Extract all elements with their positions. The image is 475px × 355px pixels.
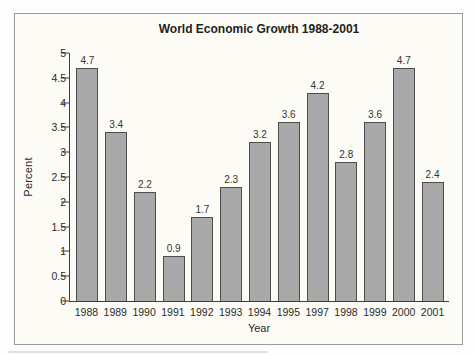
plot-area: 4.73.42.20.91.72.33.23.64.22.83.64.72.4 <box>69 53 449 302</box>
bar-group-1995: 3.6 <box>274 53 303 301</box>
bar <box>105 132 127 301</box>
bar-value-label: 1.7 <box>195 204 209 215</box>
y-tick-mark <box>61 102 69 103</box>
x-tick-label: 1994 <box>245 306 274 319</box>
bar-value-label: 3.6 <box>368 109 382 120</box>
x-tick-label: 1991 <box>159 306 188 319</box>
y-axis-title-col: Percent <box>15 53 41 301</box>
y-tick-mark <box>61 177 69 178</box>
bar-group-1993: 2.3 <box>217 53 246 301</box>
bar-value-label: 3.2 <box>253 129 267 140</box>
y-tick-mark <box>61 53 69 54</box>
title-row: World Economic Growth 1988-2001 <box>15 22 462 36</box>
scan-artifact-line <box>8 351 268 353</box>
y-tick-mark <box>61 226 69 227</box>
bar-value-label: 0.9 <box>167 243 181 254</box>
bar <box>307 93 329 301</box>
bar <box>191 217 213 301</box>
x-tick-label: 1995 <box>274 306 303 319</box>
bar <box>134 192 156 301</box>
bar-group-1998: 2.8 <box>332 53 361 301</box>
bar-value-label: 4.7 <box>80 55 94 66</box>
bar-value-label: 3.6 <box>282 109 296 120</box>
y-tick-mark <box>61 251 69 252</box>
x-tick-label: 2000 <box>389 306 418 319</box>
x-tick-label: 1999 <box>360 306 389 319</box>
bar-value-label: 4.7 <box>397 55 411 66</box>
y-tick-mark <box>61 201 69 202</box>
bar <box>335 162 357 301</box>
bar-value-label: 4.2 <box>311 80 325 91</box>
bar-value-label: 2.3 <box>224 174 238 185</box>
bar-group-1989: 3.4 <box>102 53 131 301</box>
chart-body: Percent 00.511.522.533.544.55 4.73.42.20… <box>15 53 462 335</box>
bar-group-1999: 3.6 <box>361 53 390 301</box>
bar <box>76 68 98 301</box>
x-tick-label: 2001 <box>418 306 447 319</box>
bar <box>220 187 242 301</box>
x-tick-label: 1998 <box>332 306 361 319</box>
bar-value-label: 2.2 <box>138 179 152 190</box>
x-axis-title: Year <box>69 322 449 335</box>
bar <box>249 142 271 301</box>
bar-group-1994: 3.2 <box>246 53 275 301</box>
x-labels-row: 1988198919901991199219931994199519971998… <box>69 306 449 319</box>
y-tick-mark <box>61 127 69 128</box>
bars-row: 4.73.42.20.91.72.33.23.64.22.83.64.72.4 <box>70 53 449 301</box>
bar <box>163 256 185 301</box>
bar-group-1992: 1.7 <box>188 53 217 301</box>
y-axis-title: Percent <box>22 157 34 196</box>
y-tick-mark <box>61 301 69 302</box>
chart-title: World Economic Growth 1988-2001 <box>69 22 449 36</box>
page: World Economic Growth 1988-2001 Percent … <box>0 0 475 355</box>
x-tick-label: 1989 <box>101 306 130 319</box>
y-tick-mark <box>61 276 69 277</box>
x-tick-label: 1993 <box>216 306 245 319</box>
bar <box>393 68 415 301</box>
bar-value-label: 2.4 <box>426 169 440 180</box>
bar <box>364 122 386 301</box>
bar-group-1991: 0.9 <box>159 53 188 301</box>
x-tick-label: 1988 <box>72 306 101 319</box>
bar <box>422 182 444 301</box>
x-tick-label: 1992 <box>187 306 216 319</box>
x-tick-label: 1990 <box>130 306 159 319</box>
bar-group-1988: 4.7 <box>73 53 102 301</box>
y-tick-mark <box>61 77 69 78</box>
y-tick-mark <box>61 152 69 153</box>
bar <box>278 122 300 301</box>
bar-group-2001: 2.4 <box>418 53 447 301</box>
bar-group-2000: 4.7 <box>389 53 418 301</box>
plot-col: 4.73.42.20.91.72.33.23.64.22.83.64.72.4 … <box>69 53 449 335</box>
bar-group-1990: 2.2 <box>131 53 160 301</box>
bar-value-label: 2.8 <box>339 149 353 160</box>
bar-value-label: 3.4 <box>109 119 123 130</box>
bar-group-1997: 4.2 <box>303 53 332 301</box>
chart-card: World Economic Growth 1988-2001 Percent … <box>14 13 463 345</box>
x-tick-label: 1997 <box>303 306 332 319</box>
